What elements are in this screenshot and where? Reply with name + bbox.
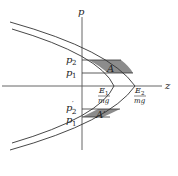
svg-text:E: E <box>98 86 105 95</box>
p2-label: p 2 <box>66 54 76 67</box>
region-a-prime-label: A′ <box>95 109 106 120</box>
svg-text:1: 1 <box>72 120 76 128</box>
svg-text:E: E <box>134 86 141 95</box>
p-axis-label: p <box>78 6 85 17</box>
svg-text:′: ′ <box>72 100 74 108</box>
svg-text:mg: mg <box>98 97 110 105</box>
e1-mg-label: E 1 mg <box>98 86 110 105</box>
svg-text:2: 2 <box>141 90 145 96</box>
p1-label: p 1 <box>66 67 76 80</box>
phase-space-diagram: p z p 2 p 1 p ′ 2 p ′ 1 A A′ E 1 mg E 2 … <box>0 0 178 176</box>
e2-mg-label: E 2 mg <box>134 86 146 105</box>
svg-text:mg: mg <box>134 97 146 105</box>
z-axis-label: z <box>164 80 171 91</box>
svg-text:1: 1 <box>72 72 76 80</box>
svg-text:1: 1 <box>105 90 109 96</box>
svg-text:2: 2 <box>72 59 76 67</box>
region-a-label: A <box>106 63 114 74</box>
